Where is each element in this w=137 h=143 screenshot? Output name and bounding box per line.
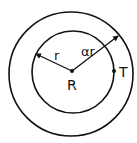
label-r: r <box>54 48 60 63</box>
label-center-R: R <box>67 77 77 93</box>
label-alpha-r: αr <box>81 44 96 59</box>
outer-radius-arrow <box>72 36 118 71</box>
point-t <box>112 69 116 73</box>
label-T: T <box>118 64 128 80</box>
concentric-circles-diagram: r αr R T <box>0 0 137 143</box>
center-point <box>70 69 74 73</box>
